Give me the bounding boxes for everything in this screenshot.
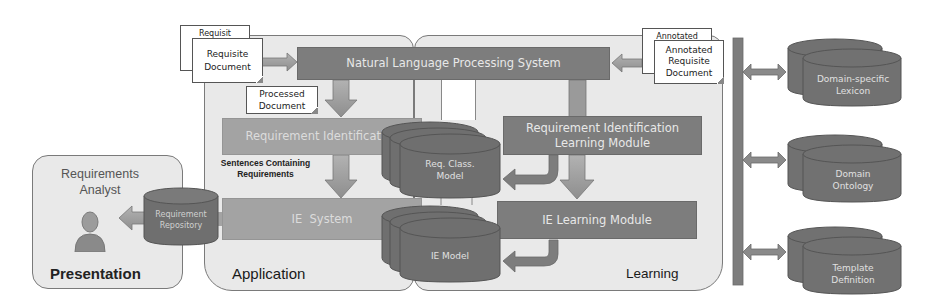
annotated-requisite-document: Annotated Requisite Document <box>654 40 724 84</box>
ri-learning-module-label: Requirement Identification Learning Modu… <box>526 121 679 150</box>
page-fold-icon <box>717 77 724 84</box>
nlp-system-label: Natural Language Processing System <box>346 56 560 70</box>
requirement-repository-store: Requirement Repository <box>143 187 219 247</box>
domain-ontology-store: Domain Ontology <box>787 134 902 204</box>
requisite-document-label: Requisite Document <box>204 48 251 72</box>
ie-model-store: IE Model <box>380 202 504 284</box>
annotated-requisite-document-label: Annotated Requisite Document <box>666 45 713 79</box>
ie-learning-module-label: IE Learning Module <box>542 213 652 227</box>
req-class-model-store: Req. Class. Model <box>380 118 504 200</box>
processed-document-label: Processed Document <box>259 88 306 112</box>
template-definition-label: Template Definition <box>805 262 901 286</box>
template-definition-store: Template Definition <box>787 226 902 296</box>
ie-system-label: IE System <box>292 212 353 226</box>
sentences-containing-requirements-label: Sentences Containing Requirements <box>208 158 323 180</box>
requirement-identification-label: Requirement Identification <box>245 129 398 143</box>
processed-document: Processed Document <box>246 86 318 114</box>
nlp-system: Natural Language Processing System <box>297 47 610 80</box>
domain-lexicon-label: Domain-specific Lexicon <box>805 73 901 97</box>
domain-lexicon-store: Domain-specific Lexicon <box>787 38 902 108</box>
ie-learning-module: IE Learning Module <box>497 201 697 239</box>
page-fold-icon <box>256 76 263 83</box>
page-fold-icon <box>311 107 318 114</box>
ri-learning-module: Requirement Identification Learning Modu… <box>503 116 702 155</box>
ie-model-label: IE Model <box>414 250 486 262</box>
req-class-model-label: Req. Class. Model <box>414 158 486 182</box>
requirement-repository-label: Requirement Repository <box>143 210 219 232</box>
domain-ontology-label: Domain Ontology <box>805 168 901 192</box>
requisite-document: Requisite Document <box>192 38 263 83</box>
